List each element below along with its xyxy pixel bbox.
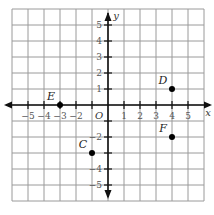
y-axis-up-arrow-icon xyxy=(105,12,112,21)
y-tick-label: 1 xyxy=(96,84,102,94)
y-tick-label: −2 xyxy=(89,132,102,142)
y-axis-label: y xyxy=(112,10,119,21)
axes xyxy=(4,12,212,199)
y-tick-label: −5 xyxy=(89,180,103,190)
x-axis-label: x xyxy=(205,107,211,118)
point-e-label: E xyxy=(46,90,55,103)
point-d-label: D xyxy=(158,74,168,87)
x-tick-label: 1 xyxy=(121,111,127,121)
x-tick-label: 4 xyxy=(169,111,175,121)
x-tick-label: 2 xyxy=(137,111,143,121)
y-tick-label: 3 xyxy=(96,52,102,62)
point-e xyxy=(57,102,63,108)
x-tick-label: 5 xyxy=(185,111,191,121)
y-axis-down-arrow-icon xyxy=(105,190,112,199)
point-c-label: C xyxy=(79,138,88,151)
x-tick-label: 3 xyxy=(153,111,159,121)
x-tick-label: −5 xyxy=(21,111,35,121)
origin-label: O xyxy=(95,110,103,121)
x-tick-label: −2 xyxy=(69,111,82,121)
y-tick-label: 5 xyxy=(96,20,102,30)
y-tick-label: 4 xyxy=(96,36,102,46)
y-tick-label: 2 xyxy=(96,68,102,78)
x-axis-left-arrow-icon xyxy=(4,102,12,109)
y-tick-label: −4 xyxy=(89,164,103,174)
point-c xyxy=(89,150,95,156)
x-tick-label: −4 xyxy=(37,111,51,121)
x-tick-label: −3 xyxy=(53,111,67,121)
point-d xyxy=(169,86,175,92)
coordinate-plane: −5−4−3−21234554321−2−4−5Oxy EDCF xyxy=(0,0,214,215)
point-f-label: F xyxy=(158,122,167,135)
point-f xyxy=(169,134,175,140)
